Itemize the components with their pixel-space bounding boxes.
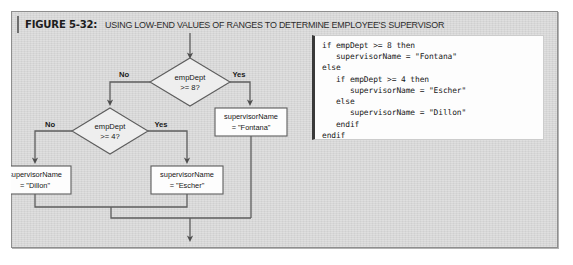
edge-merge-inner [35,194,187,207]
process-escher-line-1: supervisorName [160,170,214,179]
process-node-dillon: supervisorName = "Dillon" [11,166,71,194]
decision-1-line-2: >= 8? [180,83,199,92]
edge-d2-yes [148,131,187,161]
process-node-escher: supervisorName = "Escher" [151,166,223,194]
process-dillon-line-2: = "Dillon" [20,181,50,190]
process-node-fontana: supervisorName = "Fontana" [215,108,287,136]
decision-2-line-1: empDept [95,122,127,131]
decision-node-empdept-8: empDept >= 8? [150,58,230,106]
figure-screenshot: FIGURE 5-32: USING LOW-END VALUES OF RAN… [0,0,573,265]
decision-1-line-1: empDept [175,73,207,82]
edge-d1-no [110,82,150,103]
decision-1-yes-label: Yes [232,70,245,79]
decision-2-no-label: No [45,120,55,129]
pseudocode-panel: if empDept >= 8 then supervisorName = "F… [312,35,544,140]
decision-2-yes-label: Yes [154,120,167,129]
decision-node-empdept-4: empDept >= 4? [72,108,148,154]
edge-merge-outer [111,207,251,218]
process-escher-line-2: = "Escher" [170,181,205,190]
decision-2-line-2: >= 4? [100,132,119,141]
flowchart-diagram: empDept >= 8? No Yes supervisorName = "F… [11,11,311,248]
process-fontana-line-2: = "Fontana" [232,123,271,132]
edge-d1-yes [230,82,250,103]
pseudocode-text: if empDept >= 8 then supervisorName = "F… [315,36,543,141]
edge-d2-no [35,131,72,161]
decision-1-no-label: No [119,70,129,79]
process-dillon-line-1: supervisorName [11,170,62,179]
process-fontana-line-1: supervisorName [224,112,278,121]
